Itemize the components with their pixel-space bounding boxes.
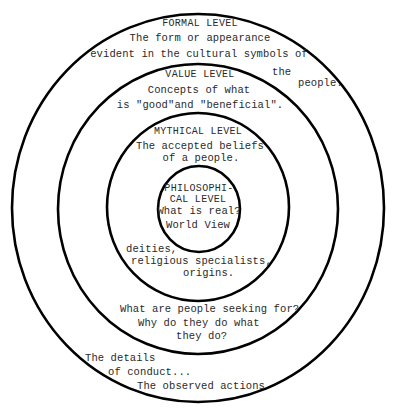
- mythical-level-title: MYTHICAL LEVEL: [154, 126, 242, 138]
- value-level-desc-line-2: is "good"and "beneficial".: [117, 99, 283, 111]
- formal-level-desc-line-1: The form or appearance: [130, 32, 271, 44]
- formal-level-desc-line-3: the: [272, 66, 291, 78]
- formal-level-desc-line-2: evident in the cultural symbols of: [90, 48, 308, 60]
- philosophical-level-desc-line-2: World View: [166, 219, 230, 231]
- formal-level-bottom-line-2: of conduct...: [108, 366, 191, 378]
- value-level-desc-line-1: Concepts of what: [148, 84, 250, 96]
- value-level-bottom-line-3: they do?: [176, 330, 227, 342]
- formal-level-title: FORMAL LEVEL: [162, 18, 238, 30]
- mythical-level-desc-line-2: of a people.: [163, 152, 240, 164]
- mythical-level-desc-line-1: The accepted beliefs: [136, 140, 264, 152]
- formal-level-bottom-line-1: The details: [85, 352, 155, 364]
- mythical-level-bottom-line-1: deities,: [126, 243, 177, 255]
- value-level-title: VALUE LEVEL: [165, 69, 234, 81]
- value-level-bottom-line-1: What are people seeking for?: [120, 303, 299, 315]
- philosophical-level-desc-line-1: What is real?: [157, 205, 240, 217]
- formal-level-desc-line-4: people.: [298, 77, 343, 89]
- mythical-level-bottom-line-3: origins.: [183, 267, 234, 279]
- level-diagram: FORMAL LEVEL The form or appearance evid…: [0, 0, 395, 411]
- mythical-level-bottom-line-2: religious specialists,: [131, 255, 272, 267]
- formal-level-bottom-line-3: The observed actions: [137, 380, 265, 392]
- value-level-bottom-line-2: Why do they do what: [138, 317, 260, 329]
